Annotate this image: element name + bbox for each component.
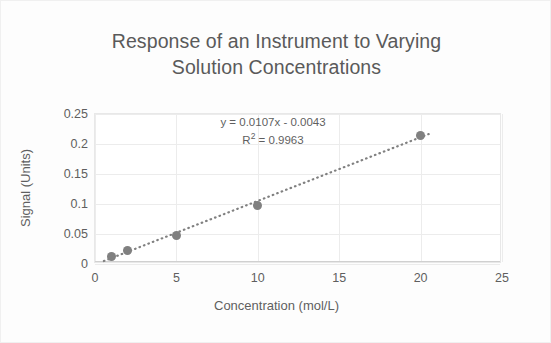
- y-tick-label: 0.1: [71, 197, 88, 211]
- x-axis-title: Concentration (mol/L): [1, 298, 551, 313]
- y-tick-label: 0.05: [64, 227, 88, 241]
- x-tick-label: 25: [495, 271, 509, 285]
- chart-title: Response of an Instrument to Varying Sol…: [1, 28, 551, 80]
- x-tick-label: 20: [414, 271, 428, 285]
- y-tick-label: 0.15: [64, 167, 88, 181]
- chart-figure: Response of an Instrument to Varying Sol…: [0, 0, 551, 343]
- x-tick-label: 0: [92, 271, 99, 285]
- gridline-horizontal: [95, 264, 500, 265]
- y-tick-label: 0: [81, 257, 88, 271]
- gridline-vertical: [502, 114, 503, 262]
- y-tick-label: 0.2: [71, 137, 88, 151]
- r-squared-value: = 0.9963: [255, 134, 303, 146]
- trendline-equation-label: y = 0.0107x - 0.0043: [197, 115, 349, 129]
- y-axis-title: Signal (Units): [18, 149, 33, 227]
- r-squared-prefix: R: [242, 134, 250, 146]
- data-point: [123, 246, 132, 255]
- trendline-r-squared-label: R2 = 0.9963: [197, 129, 349, 147]
- x-tick-label: 5: [173, 271, 180, 285]
- data-point: [416, 131, 425, 140]
- data-point: [172, 231, 181, 240]
- x-tick-label: 15: [332, 271, 346, 285]
- y-tick-label: 0.25: [64, 107, 88, 121]
- x-tick-label: 10: [251, 271, 265, 285]
- trendline-annotation: y = 0.0107x - 0.0043 R2 = 0.9963: [197, 115, 349, 147]
